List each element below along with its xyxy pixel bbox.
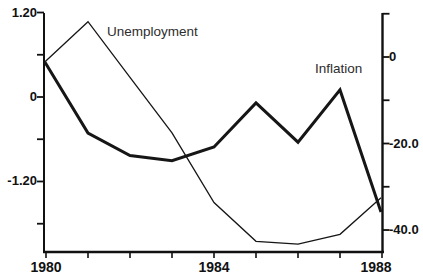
left-axis-tick-label: 0 (0, 90, 37, 104)
chart-canvas (0, 0, 423, 280)
x-axis-tick-label: 1988 (354, 260, 398, 274)
left-axis-tick-label: 1.20 (0, 6, 37, 20)
right-axis-tick-label: -20.0 (389, 137, 419, 151)
x-axis-tick-label: 1980 (24, 260, 68, 274)
unemployment-series-label: Unemployment (107, 24, 198, 39)
dual-axis-line-chart: Unemployment Inflation 1.200-1.200-20.0-… (0, 0, 423, 280)
inflation-line (45, 62, 381, 212)
right-axis-tick-label: -40.0 (389, 223, 419, 237)
right-axis-tick-label: 0 (389, 50, 396, 64)
x-axis-tick-label: 1984 (192, 260, 236, 274)
left-axis-tick-label: -1.20 (0, 174, 37, 188)
inflation-series-label: Inflation (315, 61, 362, 76)
unemployment-line (45, 22, 381, 244)
